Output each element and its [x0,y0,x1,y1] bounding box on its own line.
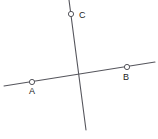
point-b-circle-icon [124,64,129,69]
point-a-circle-icon [29,79,34,84]
point-a-marker: A [29,79,35,96]
point-c-label: C [79,10,86,20]
point-a-label: A [29,86,35,96]
diagram-background [0,0,158,139]
point-b-marker: B [123,64,130,82]
point-c-circle-icon [68,11,73,16]
geometry-figure-canvas: A B C [0,0,158,139]
geometry-diagram: A B C [0,0,158,139]
point-b-label: B [123,72,129,82]
